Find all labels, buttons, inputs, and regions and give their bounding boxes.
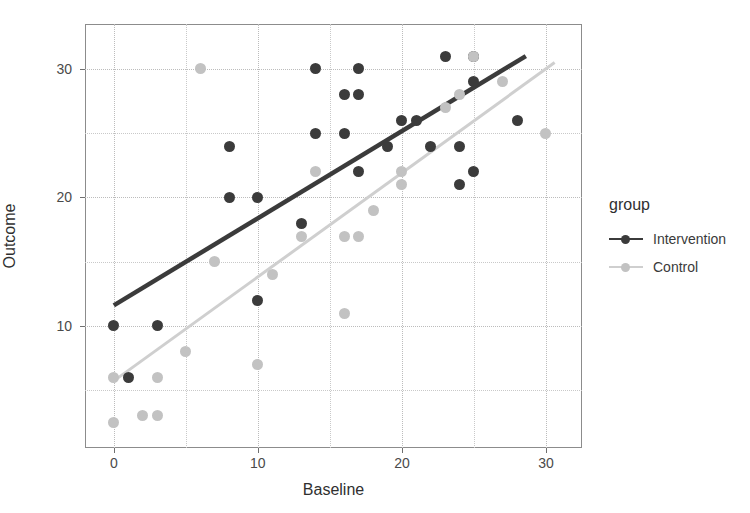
y-tick-label: 30 bbox=[56, 61, 72, 77]
x-tick-label: 20 bbox=[394, 455, 410, 471]
y-tick bbox=[80, 197, 85, 198]
data-point-intervention bbox=[440, 51, 451, 62]
plot-area bbox=[85, 24, 582, 448]
data-point-intervention bbox=[454, 141, 465, 152]
x-tick bbox=[258, 448, 259, 453]
data-point-intervention bbox=[152, 320, 163, 331]
legend-key-control-icon bbox=[609, 260, 643, 274]
data-point-intervention bbox=[296, 218, 307, 229]
data-point-control bbox=[339, 308, 350, 319]
data-point-control bbox=[339, 231, 350, 242]
legend-label-intervention: Intervention bbox=[653, 231, 726, 247]
x-axis-label: Baseline bbox=[85, 481, 582, 499]
x-tick bbox=[402, 448, 403, 453]
regression-lines bbox=[85, 24, 582, 448]
y-axis-label: Outcome bbox=[1, 204, 19, 269]
data-point-intervention bbox=[411, 115, 422, 126]
data-point-intervention bbox=[382, 141, 393, 152]
x-tick-label: 0 bbox=[110, 455, 118, 471]
legend: group Intervention Control bbox=[609, 196, 744, 284]
x-tick bbox=[114, 448, 115, 453]
data-point-control bbox=[152, 372, 163, 383]
data-point-control bbox=[267, 269, 278, 280]
y-tick bbox=[80, 69, 85, 70]
data-point-control bbox=[368, 205, 379, 216]
data-point-control bbox=[353, 231, 364, 242]
data-point-intervention bbox=[512, 115, 523, 126]
legend-key-intervention-icon bbox=[609, 232, 643, 246]
fit-line-control bbox=[115, 63, 554, 380]
legend-item-control[interactable]: Control bbox=[609, 256, 744, 278]
data-point-intervention bbox=[123, 372, 134, 383]
data-point-control bbox=[440, 102, 451, 113]
legend-item-intervention[interactable]: Intervention bbox=[609, 228, 744, 250]
x-tick-label: 30 bbox=[538, 455, 554, 471]
y-tick bbox=[80, 326, 85, 327]
legend-label-control: Control bbox=[653, 259, 698, 275]
chart-canvas: 0102030102030 Baseline Outcome group Int… bbox=[0, 0, 750, 513]
x-tick bbox=[546, 448, 547, 453]
data-point-intervention bbox=[310, 128, 321, 139]
data-point-intervention bbox=[224, 192, 235, 203]
x-tick-label: 10 bbox=[250, 455, 266, 471]
data-point-control bbox=[296, 231, 307, 242]
y-tick-label: 20 bbox=[56, 189, 72, 205]
data-point-intervention bbox=[339, 89, 350, 100]
y-tick-label: 10 bbox=[56, 318, 72, 334]
legend-title: group bbox=[609, 196, 744, 214]
data-point-control bbox=[152, 410, 163, 421]
data-point-intervention bbox=[425, 141, 436, 152]
data-point-intervention bbox=[224, 141, 235, 152]
data-point-intervention bbox=[339, 128, 350, 139]
